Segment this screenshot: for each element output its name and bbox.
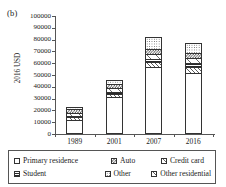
x-tick-mark [213, 134, 214, 137]
bar-2007 [145, 37, 162, 134]
y-tick-label: 50000 [5, 72, 51, 79]
y-tick-mark [52, 110, 55, 111]
legend-row-2: StudentOtherOther residential [14, 167, 211, 180]
x-tick-label-2001: 2001 [94, 137, 134, 146]
y-tick-mark [52, 63, 55, 64]
y-tick-mark [52, 40, 55, 41]
legend-swatch-icon [151, 171, 157, 177]
bar-2001 [106, 80, 123, 134]
y-tick-label: 30000 [5, 95, 51, 102]
y-tick-label: 80000 [5, 36, 51, 43]
y-tick-label: 100000 [5, 13, 51, 20]
legend-item-other-residential[interactable]: Other residential [151, 169, 211, 178]
legend-swatch-icon [14, 158, 20, 164]
chart-legend: Primary residenceAutoCredit card Student… [8, 150, 216, 184]
y-tick-label: 10000 [5, 119, 51, 126]
y-tick-label: 40000 [5, 83, 51, 90]
y-tick-label: 20000 [5, 107, 51, 114]
bar-segment-primary-residence [66, 120, 83, 134]
legend-item-auto[interactable]: Auto [111, 156, 161, 165]
legend-label: Auto [120, 156, 135, 165]
y-tick-mark [52, 87, 55, 88]
y-tick-label: 90000 [5, 24, 51, 31]
y-tick-label: 70000 [5, 48, 51, 55]
legend-item-primary-residence[interactable]: Primary residence [14, 156, 111, 165]
legend-label: Credit card [170, 156, 204, 165]
bar-segment-primary-residence [145, 67, 162, 134]
legend-label: Primary residence [23, 156, 78, 165]
bar-1989 [66, 107, 83, 134]
y-tick-mark [52, 75, 55, 76]
bar-segment-primary-residence [185, 73, 202, 134]
y-tick-mark [52, 16, 55, 17]
legend-row-1: Primary residenceAutoCredit card [14, 154, 211, 167]
y-tick-label: 0 [5, 131, 51, 138]
plot-area [55, 16, 213, 134]
y-tick-mark [52, 99, 55, 100]
bar-segment-other [145, 37, 162, 49]
x-tick-label-2016: 2016 [173, 137, 213, 146]
bar-segment-primary-residence [106, 97, 123, 134]
legend-label: Student [23, 169, 46, 178]
legend-item-student[interactable]: Student [14, 169, 105, 178]
y-axis-tick-labels: 1000009000080000700006000050000400003000… [3, 16, 51, 134]
legend-item-other[interactable]: Other [105, 169, 152, 178]
y-tick-mark [52, 28, 55, 29]
x-axis-line [55, 134, 215, 135]
y-tick-mark [52, 51, 55, 52]
bar-2016 [185, 43, 202, 134]
legend-label: Other [114, 169, 131, 178]
legend-swatch-icon [161, 158, 167, 164]
legend-swatch-icon [111, 158, 117, 164]
legend-swatch-icon [14, 171, 20, 177]
legend-swatch-icon [105, 171, 111, 177]
x-tick-label-2007: 2007 [134, 137, 174, 146]
x-tick-label-1989: 1989 [55, 137, 95, 146]
bar-segment-other [185, 43, 202, 52]
legend-item-credit-card[interactable]: Credit card [161, 156, 204, 165]
y-tick-mark [52, 122, 55, 123]
y-tick-label: 60000 [5, 60, 51, 67]
chart-figure: (b) 2016 USD 100000900008000070000600005… [0, 0, 226, 187]
legend-label: Other residential [160, 169, 211, 178]
